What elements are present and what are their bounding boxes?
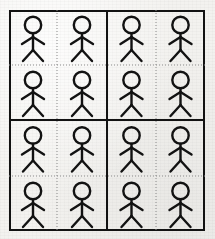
figure-arm-left	[121, 203, 132, 210]
stick-figure-r4-c1	[22, 183, 44, 227]
figure-arm-right	[181, 203, 192, 210]
stick-figure-r1-c1	[22, 17, 44, 61]
figure-arm-left	[71, 92, 82, 99]
stick-figure-r4-c3	[121, 183, 143, 227]
figure-leg-left	[122, 50, 132, 61]
figure-head	[172, 127, 188, 143]
figure-leg-left	[23, 216, 33, 227]
figure-leg-right	[132, 216, 142, 227]
figure-arm-left	[22, 92, 33, 99]
figure-leg-right	[33, 105, 43, 116]
figure-arm-left	[121, 148, 132, 155]
figure-leg-right	[33, 161, 43, 172]
figure-leg-right	[181, 216, 191, 227]
figure-arm-right	[33, 92, 44, 99]
figure-leg-left	[122, 105, 132, 116]
figure-arm-right	[33, 37, 44, 44]
figure-leg-left	[72, 105, 82, 116]
figure-arm-left	[121, 92, 132, 99]
figure-leg-right	[181, 105, 191, 116]
figure-leg-right	[82, 105, 92, 116]
stick-figure-r3-c3	[121, 127, 143, 171]
figure-arm-right	[181, 37, 192, 44]
figure-arm-right	[33, 203, 44, 210]
figure-leg-right	[82, 50, 92, 61]
figure-head	[25, 183, 41, 199]
figure-leg-left	[72, 216, 82, 227]
figure-head	[25, 72, 41, 88]
stick-figure-r2-c2	[71, 72, 93, 116]
stick-figure-r2-c3	[121, 72, 143, 116]
stick-figure-r3-c4	[170, 127, 192, 171]
figure-head	[123, 183, 139, 199]
figure-head	[74, 17, 90, 33]
stick-figure-r2-c4	[170, 72, 192, 116]
figure-head	[74, 127, 90, 143]
figure-arm-left	[170, 92, 181, 99]
figure-arm-right	[82, 148, 93, 155]
figure-head	[172, 17, 188, 33]
figure-leg-left	[122, 216, 132, 227]
figure-head	[74, 183, 90, 199]
stick-figure-r3-c1	[22, 127, 44, 171]
stick-figure-grid	[0, 0, 215, 239]
figure-head	[25, 127, 41, 143]
figure-leg-right	[33, 216, 43, 227]
figure-leg-left	[23, 105, 33, 116]
figure-leg-left	[72, 161, 82, 172]
figure-leg-right	[132, 161, 142, 172]
figure-arm-right	[132, 148, 143, 155]
figure-arm-right	[181, 92, 192, 99]
figure-leg-right	[82, 216, 92, 227]
figure-leg-right	[181, 161, 191, 172]
figure-arm-left	[170, 37, 181, 44]
solid-divider-group	[9, 10, 205, 231]
figure-leg-left	[23, 50, 33, 61]
stick-figure-r2-c1	[22, 72, 44, 116]
figure-leg-right	[33, 50, 43, 61]
figure-head	[123, 72, 139, 88]
figure-leg-left	[72, 50, 82, 61]
figure-arm-right	[82, 37, 93, 44]
figure-head	[172, 72, 188, 88]
stick-figure-r1-c3	[121, 17, 143, 61]
figure-arm-left	[71, 203, 82, 210]
figure-head	[123, 17, 139, 33]
figure-leg-right	[132, 105, 142, 116]
figure-leg-right	[82, 161, 92, 172]
figure-arm-left	[121, 37, 132, 44]
stick-figure-r4-c4	[170, 183, 192, 227]
figure-arm-right	[181, 148, 192, 155]
stick-figure-r3-c2	[71, 127, 93, 171]
image-canvas	[0, 0, 215, 239]
figure-arm-left	[71, 148, 82, 155]
figure-head	[25, 17, 41, 33]
stick-figure-r4-c2	[71, 183, 93, 227]
figure-leg-left	[122, 161, 132, 172]
figure-arm-left	[71, 37, 82, 44]
figure-arm-left	[170, 203, 181, 210]
figure-arm-left	[22, 148, 33, 155]
figure-arm-right	[33, 148, 44, 155]
stick-figure-r1-c2	[71, 17, 93, 61]
figure-leg-right	[132, 50, 142, 61]
figure-leg-left	[171, 105, 181, 116]
figure-leg-left	[171, 161, 181, 172]
figure-arm-right	[132, 92, 143, 99]
figure-arm-right	[82, 92, 93, 99]
figure-head	[74, 72, 90, 88]
figure-head	[123, 127, 139, 143]
stick-figure-r1-c4	[170, 17, 192, 61]
figure-arm-left	[170, 148, 181, 155]
figure-leg-left	[171, 216, 181, 227]
figure-arm-left	[22, 37, 33, 44]
figure-arm-right	[132, 203, 143, 210]
figure-leg-left	[171, 50, 181, 61]
figure-leg-left	[23, 161, 33, 172]
figure-arm-right	[132, 37, 143, 44]
figure-arm-left	[22, 203, 33, 210]
figure-arm-right	[82, 203, 93, 210]
figure-head	[172, 183, 188, 199]
figure-leg-right	[181, 50, 191, 61]
